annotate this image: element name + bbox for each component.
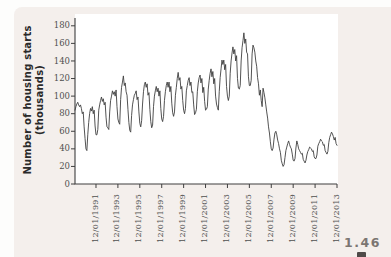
x-axis-tick-label: 12/01/2001 [200,189,210,243]
x-axis-tick-label: 12/01/2013 [332,189,342,243]
partial-glyph-bottom-edge [357,252,366,257]
y-axis-tick-label: 80 [44,109,70,118]
page: Number of housing starts (thousands) 180… [0,0,391,257]
x-axis-tick-label: 12/01/2005 [244,189,254,243]
x-axis-tick-label: 12/01/2009 [288,189,298,243]
y-axis-tick-label: 140 [44,57,70,66]
x-axis-tick-label: 12/01/1995 [134,189,144,243]
y-axis-title: Number of housing starts (thousands) [22,25,46,175]
y-axis-tick-label: 0 [44,180,70,189]
x-axis-tick-label: 12/01/1997 [156,189,166,243]
plot-area-background [75,14,338,184]
x-axis-tick-label: 12/01/2011 [310,189,320,243]
x-axis-tick-label: 12/01/2007 [266,189,276,243]
x-axis-tick-label: 12/01/1993 [112,189,122,243]
line-chart-plot [69,10,339,190]
y-axis-tick-label: 40 [44,144,70,153]
x-axis-tick-label: 12/01/2003 [222,189,232,243]
y-axis-tick-label: 100 [44,92,70,101]
y-axis-tick-label: 180 [44,21,70,30]
figure-number: 1.46 [344,235,381,250]
y-axis-tick-label: 60 [44,127,70,136]
x-axis-tick-label: 12/01/1999 [178,189,188,243]
y-axis-tick-label: 120 [44,74,70,83]
x-axis-tick-label: 12/01/1991 [91,189,101,243]
y-axis-title-line1: Number of housing starts [22,25,34,175]
y-axis-tick-label: 160 [44,39,70,48]
y-axis-tick-label: 20 [44,162,70,171]
